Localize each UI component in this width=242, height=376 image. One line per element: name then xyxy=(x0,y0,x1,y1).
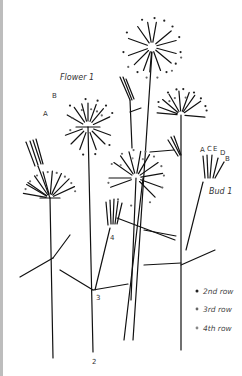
legend: 2nd row 3rd row 4th row xyxy=(196,287,235,333)
umbel-top-ray xyxy=(129,38,148,45)
flower1-dot xyxy=(82,153,84,155)
umbel-left-dot xyxy=(74,190,76,192)
umbel-mid-dot xyxy=(120,164,122,166)
branch xyxy=(144,263,181,265)
umbel-top-ray xyxy=(157,41,176,46)
branch xyxy=(20,258,53,277)
flower1-ray xyxy=(92,131,105,144)
umbel-top-dot xyxy=(122,51,124,53)
umbel-right-dot xyxy=(185,97,187,99)
umbel-right-dot xyxy=(175,88,177,90)
umbel-right-dot xyxy=(157,101,159,103)
flower1-dot xyxy=(96,110,98,112)
flower1-dot xyxy=(84,98,86,100)
flower1-ray xyxy=(80,133,86,150)
umbel-right-dot xyxy=(182,88,184,90)
umbel-right-ray xyxy=(179,91,181,111)
umbel-left-dot xyxy=(29,180,31,182)
flower1-dot xyxy=(94,153,96,155)
bud4-ray xyxy=(113,199,114,224)
legend-dot-2nd-row xyxy=(196,290,199,293)
flower1-dot xyxy=(90,108,92,110)
stem-flower1 xyxy=(88,127,93,352)
umbel-top-dot xyxy=(141,19,143,21)
umbel-mid-dot xyxy=(131,157,133,159)
flower1-ray xyxy=(65,129,82,135)
umbel-right-dot xyxy=(206,109,208,111)
label-bud-c: C xyxy=(207,145,212,153)
legend-dot-4th-row xyxy=(196,327,199,330)
flower1-ray xyxy=(71,131,84,144)
umbel-top-dot xyxy=(171,25,173,27)
bud-top-ray xyxy=(120,77,130,100)
umbel-mid-dot xyxy=(144,151,146,153)
umbel-mid-dot xyxy=(153,155,155,157)
umbel-top-dot xyxy=(136,71,138,73)
label-2: 2 xyxy=(92,358,96,366)
umbel-left-dot xyxy=(24,188,26,190)
branch xyxy=(150,150,174,152)
umbel-top-dot xyxy=(146,76,148,78)
flower1-dot xyxy=(101,114,103,116)
umbel-mid-dot xyxy=(117,198,119,200)
umbel-mid-dot xyxy=(107,182,109,184)
bud4-stalk xyxy=(95,228,110,290)
umbel-left-dot xyxy=(70,182,72,184)
umbel-top-ray xyxy=(153,22,156,42)
umbel-right-ray xyxy=(185,115,205,117)
umbel-top-dot xyxy=(156,76,158,78)
umbel-top-ray xyxy=(157,48,176,53)
umbel-top-dot xyxy=(126,31,128,33)
flower1-dot xyxy=(111,112,113,114)
umbel-right-ray xyxy=(157,113,177,115)
umbel-diagram: Flower 1 B A A C E D B Bud 1 4 3 2 2nd r… xyxy=(0,0,242,376)
bud1-ray xyxy=(210,155,212,178)
umbel-left-dot xyxy=(56,172,58,174)
bud4-ray xyxy=(106,202,108,225)
bud-top-stalk xyxy=(130,100,132,148)
umbel-top-ray xyxy=(148,22,151,42)
branch xyxy=(93,284,128,290)
umbel-top-ray xyxy=(154,52,161,71)
umbel-top-dot xyxy=(153,17,155,19)
umbel-left-dot xyxy=(47,171,49,173)
label-bud-e: E xyxy=(213,145,217,153)
umbel-mid-dot xyxy=(161,186,163,188)
label-bud-1: Bud 1 xyxy=(209,187,232,196)
umbel-top-dot xyxy=(175,63,177,65)
flower1-dot xyxy=(96,100,98,102)
branch xyxy=(181,250,215,265)
umbel-top-dot xyxy=(171,70,173,72)
umbel-left-dot xyxy=(64,176,66,178)
label-bud-b: B xyxy=(225,155,230,163)
umbel-mid-dot xyxy=(121,153,123,155)
branch xyxy=(53,235,70,258)
umbel-right-dot xyxy=(193,91,195,93)
umbel-mid-dot xyxy=(160,165,162,167)
flower1-dot xyxy=(105,104,107,106)
umbel-right-dot xyxy=(168,100,170,102)
legend-label-4th-row: 4th row xyxy=(203,324,233,333)
flower1-dot xyxy=(108,144,110,146)
branch xyxy=(60,270,93,290)
bud1-ray xyxy=(203,156,205,178)
umbel-top-dot xyxy=(179,51,181,53)
branch xyxy=(117,218,175,240)
label-flower-1: Flower 1 xyxy=(60,73,94,82)
legend-dot-3rd-row xyxy=(196,308,199,311)
legend-label-2nd-row: 2nd row xyxy=(203,287,234,296)
umbel-top-dot xyxy=(163,20,165,22)
umbel-top-dot xyxy=(180,57,182,59)
stem-left xyxy=(50,198,53,358)
umbel-top-ray xyxy=(156,50,171,63)
umbel-top-dot xyxy=(127,66,129,68)
bud1-stalk xyxy=(186,182,203,250)
bud4-ray xyxy=(110,200,111,224)
label-flower-a: A xyxy=(43,110,48,118)
umbel-right-dot xyxy=(174,97,176,99)
label-bud-a: A xyxy=(200,146,205,154)
umbel-top-ray xyxy=(156,31,171,44)
flower1-dot xyxy=(69,104,71,106)
umbel-right-ray xyxy=(130,108,141,112)
legend-label-3rd-row: 3rd row xyxy=(203,305,233,314)
